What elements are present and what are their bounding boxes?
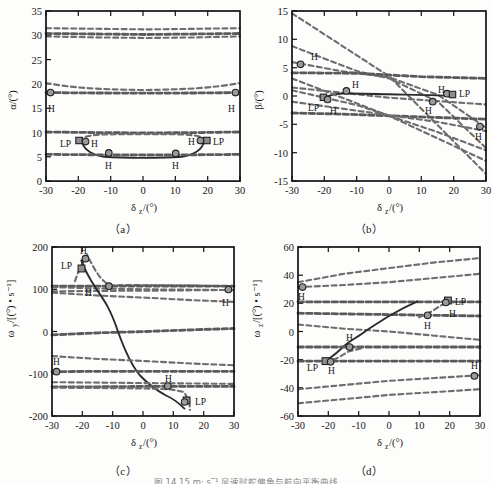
x-tick-label: -10 — [350, 185, 364, 196]
y-tick-label: 0 — [43, 327, 48, 338]
panel-c-x-tick-labels: -30 -20 -10 0 10 20 30 — [45, 420, 239, 431]
panel-d-plot: 60 40 20 0 -20 -40 -60 ω z /[(°) • s⁻¹] — [246, 238, 492, 466]
marker-h — [82, 138, 89, 145]
panel-a-caption: （a） — [0, 220, 246, 236]
panel-d-y-axis-title: ω z /[(°) • s⁻¹] — [251, 280, 265, 338]
x-tick-label: 20 — [448, 185, 459, 196]
panel-c-branches — [52, 255, 234, 410]
marker-h — [424, 312, 431, 319]
marker-lp — [449, 91, 455, 97]
branch-flat-n120 — [52, 382, 234, 384]
marker-lp — [204, 137, 210, 143]
panel-b: 15 10 5 0 -5 -10 -15 β/(°) — [246, 0, 492, 242]
point-label-h: H — [475, 132, 482, 142]
x-axis-symbol: δ — [131, 437, 136, 448]
branch-5-4 — [46, 154, 240, 155]
x-tick-label: -20 — [321, 420, 335, 431]
branch-asc-top-2 — [298, 274, 480, 287]
point-label-h: H — [328, 366, 335, 376]
marker-h — [297, 61, 304, 68]
point-label-h: H — [85, 288, 92, 298]
panel-a: 35 30 25 20 15 10 5 0 α/(°) — [0, 0, 246, 242]
x-tick-label: 30 — [475, 420, 486, 431]
branch-30-4 — [46, 34, 240, 35]
point-label-h: H — [298, 292, 305, 302]
panel-a-x-tick-labels: -30 -20 -10 0 10 20 30 — [39, 185, 245, 196]
panel-d-x-axis-title: δ z /(°) — [377, 437, 404, 451]
panel-a-markers — [47, 89, 239, 156]
marker-h — [324, 96, 331, 103]
marker-h — [53, 368, 60, 375]
x-tick-label: -30 — [291, 420, 305, 431]
y-tick-label: 5 — [37, 152, 42, 163]
y-axis-symbol: ω — [251, 330, 262, 337]
panel-b-plot: 15 10 5 0 -5 -10 -15 β/(°) — [246, 0, 492, 230]
x-tick-label: -20 — [75, 420, 89, 431]
y-tick-label: 10 — [32, 128, 43, 139]
panel-b-y-axis-title: β/(°) — [253, 90, 265, 110]
branch-31-5 — [46, 28, 240, 29]
y-tick-label: 20 — [284, 298, 295, 309]
point-label-h: H — [425, 106, 432, 116]
branch-asc-top-1 — [298, 258, 480, 282]
panel-b-y-axis: 15 10 5 0 -5 -10 -15 — [274, 6, 297, 187]
y-tick-label: -10 — [274, 148, 288, 159]
x-axis-symbol: δ — [377, 437, 382, 448]
branch-asc-bot-2 — [298, 389, 480, 403]
marker-h — [106, 283, 113, 290]
point-label-h: H — [424, 321, 431, 331]
marker-h — [82, 255, 89, 262]
panel-a-x-axis-title: δ z /(°) — [131, 202, 158, 216]
x-tick-label: -30 — [39, 185, 53, 196]
point-label-lp: LP — [455, 297, 466, 307]
x-tick-label: 20 — [444, 420, 455, 431]
x-tick-label: 30 — [229, 420, 240, 431]
x-tick-label: 10 — [170, 185, 181, 196]
point-label-h: H — [165, 374, 172, 384]
marker-lp — [78, 265, 85, 272]
y-tick-label: 10 — [278, 34, 289, 45]
branch-asc-bot-1 — [298, 375, 480, 389]
marker-h — [343, 88, 350, 95]
branch-upper-19 — [46, 83, 240, 90]
y-tick-label: 200 — [32, 242, 48, 253]
branch-solid-main — [326, 301, 418, 361]
x-axis-unit: /(°) — [389, 437, 404, 449]
point-label-h: H — [53, 357, 60, 367]
y-tick-label: 0 — [283, 91, 288, 102]
y-tick-label: 35 — [32, 6, 43, 17]
panel-c-x-axis-title: δ z /(°) — [131, 437, 158, 451]
branch-29-8 — [46, 36, 240, 38]
marker-h — [181, 399, 188, 406]
panel-d-y-axis: 60 40 20 0 -20 -40 -60 — [280, 242, 303, 422]
point-label-h: H — [438, 85, 445, 95]
panel-a-plot: 35 30 25 20 15 10 5 0 α/(°) — [0, 0, 246, 230]
x-tick-label: 10 — [414, 420, 425, 431]
marker-h — [197, 137, 204, 144]
x-tick-label: -20 — [317, 185, 331, 196]
x-tick-label: -30 — [45, 420, 59, 431]
panel-d-branches — [298, 258, 480, 403]
marker-h — [232, 89, 239, 96]
point-label-h: H — [105, 161, 112, 171]
x-tick-label: 10 — [168, 420, 179, 431]
x-tick-label: 10 — [416, 185, 427, 196]
panel-c-y-axis-title: ω y /[(°) • s⁻¹] — [5, 280, 19, 338]
x-axis-symbol: δ — [377, 202, 382, 213]
x-tick-label: -30 — [285, 185, 299, 196]
point-label-h: H — [346, 333, 353, 343]
point-label-h: H — [228, 104, 235, 114]
panel-b-caption: （b） — [246, 220, 492, 236]
branch-desc-mid — [298, 325, 480, 340]
marker-h — [327, 359, 334, 366]
branch-10 — [46, 132, 240, 133]
point-label-h: H — [48, 104, 55, 114]
marker-h — [106, 150, 113, 157]
branch-top-lp — [75, 255, 234, 286]
x-tick-label: 20 — [202, 185, 213, 196]
point-label-h: H — [311, 52, 318, 62]
y-axis-unit: /[(°) • s⁻¹] — [251, 280, 263, 323]
y-tick-label: 100 — [32, 284, 48, 295]
x-axis-unit: /(°) — [389, 202, 404, 214]
point-label-lp: LP — [307, 363, 318, 373]
